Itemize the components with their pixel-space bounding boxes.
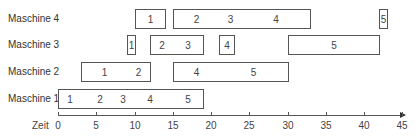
task-bar: 2 xyxy=(150,35,174,55)
x-tick xyxy=(288,112,289,116)
x-tick-label: 30 xyxy=(278,120,298,131)
x-tick xyxy=(96,112,97,116)
task-bar: 2 xyxy=(81,89,120,109)
row-label: Maschine 2 xyxy=(8,66,59,78)
x-axis-arrow-icon xyxy=(400,112,406,118)
task-bar: 5 xyxy=(288,35,380,55)
task-bar: 4 xyxy=(173,62,220,82)
x-axis xyxy=(58,115,402,116)
task-bar: 1 xyxy=(81,62,128,82)
x-tick-label: 25 xyxy=(239,120,259,131)
task-bar: 5 xyxy=(379,9,388,29)
task-bar: 5 xyxy=(219,62,289,82)
x-tick xyxy=(364,112,365,116)
row-label: Maschine 1 xyxy=(8,93,59,105)
x-tick xyxy=(249,112,250,116)
gantt-chart: Zeit 051015202530354045Maschine 412345Ma… xyxy=(0,0,416,139)
task-bar: 2 xyxy=(127,62,151,82)
task-bar: 4 xyxy=(242,9,311,29)
x-tick-label: 45 xyxy=(392,120,412,131)
task-bar: 4 xyxy=(219,35,235,55)
task-bar: 1 xyxy=(127,35,136,55)
task-bar: 4 xyxy=(127,89,174,109)
row-label: Maschine 3 xyxy=(8,39,59,51)
x-axis-title: Zeit xyxy=(32,120,49,131)
x-tick xyxy=(135,112,136,116)
x-tick xyxy=(402,112,403,116)
task-bar: 2 xyxy=(173,9,220,29)
task-bar: 3 xyxy=(173,35,204,55)
x-tick-label: 35 xyxy=(316,120,336,131)
x-tick xyxy=(58,112,59,116)
task-bar: 1 xyxy=(58,89,82,109)
x-tick-label: 10 xyxy=(125,120,145,131)
x-tick-label: 40 xyxy=(354,120,374,131)
x-tick-label: 20 xyxy=(201,120,221,131)
x-tick xyxy=(326,112,327,116)
x-tick-label: 15 xyxy=(163,120,183,131)
row-label: Maschine 4 xyxy=(8,13,59,25)
x-tick xyxy=(173,112,174,116)
x-tick-label: 5 xyxy=(86,120,106,131)
x-tick-label: 0 xyxy=(48,120,68,131)
task-bar: 3 xyxy=(219,9,243,29)
task-bar: 5 xyxy=(173,89,204,109)
task-bar: 1 xyxy=(135,9,166,29)
x-tick xyxy=(211,112,212,116)
